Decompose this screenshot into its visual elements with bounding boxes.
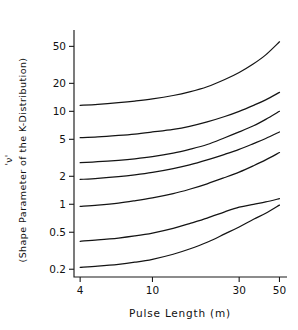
y-axis-tickmarks bbox=[69, 46, 74, 269]
x-axis-title: Pulse Length (m) bbox=[129, 307, 231, 319]
x-tick-label: 50 bbox=[273, 284, 286, 296]
x-axis-tick-labels: 4103050 bbox=[77, 284, 286, 296]
data-curves bbox=[80, 42, 279, 267]
y-tick-label: 20 bbox=[53, 77, 66, 89]
y-tick-label: 50 bbox=[53, 40, 66, 52]
y-tick-label: 1 bbox=[59, 198, 66, 210]
y-axis-tick-labels: 0.20.5125102050 bbox=[49, 40, 66, 275]
data-curve-curve-6 bbox=[80, 199, 279, 242]
y-axis-symbol-label: 'ν' bbox=[4, 154, 14, 165]
data-curve-curve-7 bbox=[80, 205, 279, 267]
plot-frame bbox=[74, 30, 287, 277]
x-tick-label: 4 bbox=[77, 284, 84, 296]
data-curve-curve-1 bbox=[80, 42, 279, 106]
data-curve-curve-4 bbox=[80, 132, 279, 179]
y-tick-label: 10 bbox=[53, 105, 66, 117]
x-axis-tickmarks bbox=[80, 277, 279, 282]
chart-figure: 0.20.5125102050 4103050 Pulse Length (m)… bbox=[0, 0, 298, 330]
y-tick-label: 5 bbox=[59, 133, 66, 145]
x-tick-label: 30 bbox=[232, 284, 245, 296]
data-curve-curve-3 bbox=[80, 111, 279, 162]
y-tick-label: 2 bbox=[59, 170, 66, 182]
x-tick-label: 10 bbox=[146, 284, 159, 296]
y-tick-label: 0.5 bbox=[49, 226, 66, 238]
log-log-line-chart: 0.20.5125102050 4103050 Pulse Length (m)… bbox=[0, 0, 298, 330]
y-axis-title: (Shape Parameter of the K-Distribution) bbox=[17, 57, 28, 262]
data-curve-curve-2 bbox=[80, 92, 279, 137]
y-tick-label: 0.2 bbox=[49, 263, 66, 275]
